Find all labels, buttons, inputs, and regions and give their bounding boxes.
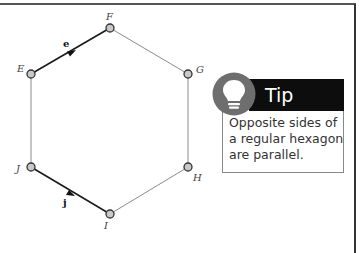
vertex-I [106,210,114,218]
edge-FG [110,28,188,74]
vertex-J [27,163,35,171]
vertex-G [184,70,192,78]
lightbulb-icon [212,72,256,116]
vertex-label-I: I [103,220,109,231]
tip-header [249,79,344,111]
vertex-label-E: E [16,63,25,74]
tip-title: Tip [265,81,293,109]
hexagon-edges [31,28,188,214]
vertex-label-F: F [105,11,114,22]
vertex-E [27,70,35,78]
tip-text: Opposite sides of a regular hexagon are … [229,115,344,163]
edge-HI [110,167,188,214]
vertices [27,24,192,218]
vector-j-line [31,167,110,214]
vertex-label-H: H [192,172,202,183]
vertex-label-J: J [14,163,21,174]
vertex-label-G: G [196,64,204,75]
arrowhead-e-icon [67,50,76,57]
vector-label-e: e [63,38,69,49]
vertex-H [184,163,192,171]
vertex-F [106,24,114,32]
vector-label-j: j [62,197,67,208]
